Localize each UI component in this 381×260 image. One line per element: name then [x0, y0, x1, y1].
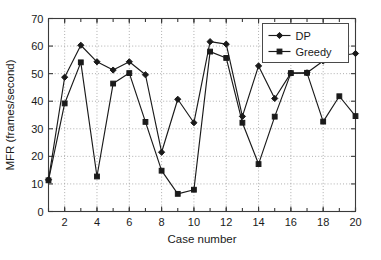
data-point-dp: [110, 67, 116, 73]
figure-container: 0102030405060702468101214161820Case numb…: [0, 0, 381, 260]
x-tick-label: 2: [62, 216, 68, 228]
x-tick-label: 12: [220, 216, 232, 228]
y-tick-label: 10: [31, 178, 43, 190]
y-tick-label: 30: [31, 123, 43, 135]
y-tick-label: 20: [31, 150, 43, 162]
data-point-greedy: [159, 168, 164, 173]
chart-canvas: 0102030405060702468101214161820Case numb…: [0, 0, 381, 260]
x-tick-label: 10: [188, 216, 200, 228]
data-point-dp: [62, 74, 68, 80]
data-point-greedy: [240, 120, 245, 125]
y-tick-label: 60: [31, 40, 43, 52]
x-tick-label: 4: [94, 216, 100, 228]
data-point-greedy: [208, 49, 213, 54]
data-point-greedy: [78, 60, 83, 65]
data-point-greedy: [111, 81, 116, 86]
y-tick-label: 50: [31, 68, 43, 80]
x-tick-label: 8: [159, 216, 165, 228]
y-tick-label: 0: [37, 206, 43, 218]
data-point-greedy: [192, 187, 197, 192]
y-tick-label: 70: [31, 13, 43, 25]
data-point-dp: [207, 39, 213, 45]
data-point-greedy: [46, 178, 51, 183]
data-point-greedy: [127, 71, 132, 76]
data-point-greedy: [337, 94, 342, 99]
data-point-dp: [255, 63, 261, 69]
data-point-greedy: [62, 101, 67, 106]
data-point-dp: [159, 149, 165, 155]
legend-label-greedy: Greedy: [296, 46, 333, 58]
x-tick-label: 14: [252, 216, 264, 228]
x-tick-label: 20: [349, 216, 361, 228]
line-chart: 0102030405060702468101214161820Case numb…: [0, 0, 381, 260]
data-point-greedy: [288, 71, 293, 76]
legend-label-dp: DP: [296, 30, 311, 42]
y-tick-label: 40: [31, 95, 43, 107]
data-point-greedy: [353, 114, 358, 119]
data-point-greedy: [224, 56, 229, 61]
data-point-dp: [272, 95, 278, 101]
data-point-greedy: [256, 162, 261, 167]
legend-marker-greedy: [277, 49, 282, 54]
data-point-greedy: [143, 119, 148, 124]
data-point-dp: [352, 50, 358, 56]
x-tick-label: 6: [126, 216, 132, 228]
data-point-greedy: [305, 70, 310, 75]
x-axis-title: Case number: [167, 233, 236, 245]
data-point-greedy: [321, 119, 326, 124]
x-tick-label: 18: [317, 216, 329, 228]
y-axis-title: MFR (frames/second): [4, 59, 16, 170]
data-point-greedy: [175, 191, 180, 196]
x-tick-label: 16: [285, 216, 297, 228]
data-point-greedy: [272, 114, 277, 119]
data-point-greedy: [95, 174, 100, 179]
